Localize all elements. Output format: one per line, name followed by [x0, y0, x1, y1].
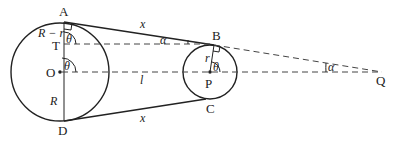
label-theta-P: θ [213, 60, 219, 74]
label-O: O [46, 65, 55, 80]
center-O-dot [58, 70, 62, 74]
label-theta-T: θ [66, 32, 72, 46]
label-P: P [205, 76, 212, 91]
label-Q: Q [376, 73, 386, 88]
center-P-dot [208, 70, 212, 74]
label-C: C [206, 101, 215, 116]
label-r: r [205, 51, 210, 65]
label-D: D [58, 123, 67, 138]
belt-line-DC [64, 99, 206, 121]
pulley-belt-diagram: A T O D B P C Q x x l R r R − r θ θ θ α … [0, 0, 394, 141]
label-A: A [59, 4, 69, 19]
label-x-top: x [139, 17, 146, 31]
dashed-line-BQ [214, 45, 382, 72]
label-R: R [49, 94, 58, 108]
label-alpha-Q: α [328, 60, 335, 74]
label-l: l [140, 73, 144, 87]
belt-line-AB [64, 22, 214, 45]
label-theta-O: θ [64, 59, 70, 73]
label-R-minus-r: R − r [37, 26, 64, 40]
label-x-bottom: x [139, 111, 146, 125]
label-T: T [52, 38, 60, 53]
label-B: B [212, 28, 221, 43]
label-alpha-B: α [160, 33, 167, 47]
